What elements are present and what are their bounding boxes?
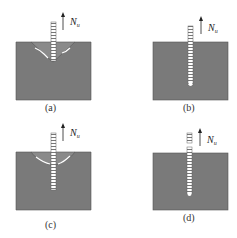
- caption-d: (d): [183, 212, 195, 224]
- anchor-bar: [187, 147, 192, 194]
- panel-d: Nu (d): [153, 128, 228, 224]
- force-arrow: [199, 16, 203, 34]
- force-arrow: [61, 123, 65, 141]
- panel-c: Nu (c): [16, 123, 91, 231]
- force-label: Nu: [69, 16, 80, 28]
- force-label: Nu: [207, 22, 218, 34]
- caption-b: (b): [183, 102, 195, 114]
- force-arrow: [198, 128, 202, 146]
- panel-b: Nu (b): [153, 16, 228, 114]
- panel-a: Nu (a): [16, 12, 91, 114]
- anchor-bar: [188, 26, 193, 85]
- caption-a: (a): [45, 102, 56, 114]
- force-label: Nu: [69, 127, 80, 139]
- anchor-bar: [51, 22, 56, 61]
- caption-c: (c): [45, 219, 56, 231]
- anchor-tip: [188, 192, 192, 196]
- anchor-failure-diagram: Nu (a) Nu (b) Nu (c): [0, 0, 237, 238]
- force-arrow: [61, 12, 65, 30]
- anchor-bar-fragment: [187, 133, 192, 143]
- force-label: Nu: [206, 134, 217, 146]
- anchor-tip: [189, 82, 193, 86]
- anchor-bar: [51, 133, 56, 190]
